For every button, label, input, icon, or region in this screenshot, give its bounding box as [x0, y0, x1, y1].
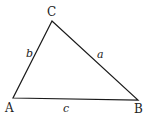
side-label-b: b: [26, 47, 33, 60]
vertex-label-c: C: [47, 5, 56, 19]
side-label-c: c: [63, 102, 69, 115]
triangle-diagram: A B C a b c: [0, 0, 149, 121]
side-label-a: a: [97, 48, 104, 61]
vertex-label-a: A: [4, 101, 14, 115]
vertex-label-b: B: [134, 102, 143, 116]
triangle-abc: [13, 21, 138, 100]
